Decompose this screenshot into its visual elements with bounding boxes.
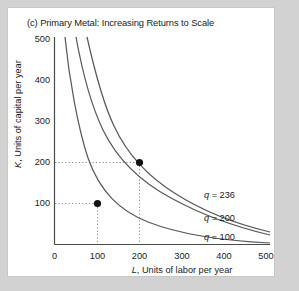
curve-q200 — [76, 37, 270, 235]
data-points — [94, 159, 143, 207]
svg-text:L, Units of labor per year: L, Units of labor per year — [132, 265, 233, 275]
figure-card: (c) Primary Metal: Increasing Returns to… — [7, 7, 275, 277]
x-tick-label-300: 300 — [174, 251, 189, 261]
curve-label-q236-value: = 236 — [209, 190, 235, 200]
x-tick-label-100: 100 — [90, 251, 105, 261]
curve-label-q100: q = 100 — [204, 232, 235, 242]
curve-label-q200-value: = 200 — [209, 213, 235, 223]
y-tick-label-200: 200 — [35, 157, 50, 167]
y-tick-label-400: 400 — [35, 75, 50, 85]
x-tick-label-200: 200 — [132, 251, 147, 261]
curve-label-q100-value: = 100 — [209, 232, 235, 242]
isoquant-curves — [65, 37, 270, 243]
x-tick-label-400: 400 — [216, 251, 231, 261]
x-tick-labels: 0 100 200 300 400 500 — [52, 251, 274, 261]
x-tick-label-0: 0 — [52, 251, 57, 261]
curve-q100 — [65, 37, 270, 243]
x-axis-title: L, Units of labor per year — [132, 265, 233, 275]
y-axis-title-text: , Units of capital per year — [13, 60, 23, 162]
curve-labels: q = 236 q = 200 q = 100 — [204, 190, 235, 242]
isoquant-chart: K, Units of capital per year 500 400 300… — [8, 8, 276, 278]
curve-label-q236: q = 236 — [204, 190, 235, 200]
y-tick-label-500: 500 — [35, 34, 50, 44]
y-tick-label-100: 100 — [35, 198, 50, 208]
axes — [55, 37, 271, 245]
y-tick-labels: 500 400 300 200 100 — [35, 34, 50, 208]
curve-label-q200: q = 200 — [204, 213, 235, 223]
x-axis-title-text: , Units of labor per year — [137, 265, 233, 275]
point-q100[interactable] — [94, 200, 101, 207]
y-tick-label-300: 300 — [35, 116, 50, 126]
point-q236[interactable] — [136, 159, 143, 166]
svg-text:K, Units of capital per year: K, Units of capital per year — [13, 60, 23, 168]
curve-q236 — [87, 37, 270, 232]
y-axis-title: K, Units of capital per year — [13, 60, 23, 168]
x-tick-label-500: 500 — [258, 251, 273, 261]
